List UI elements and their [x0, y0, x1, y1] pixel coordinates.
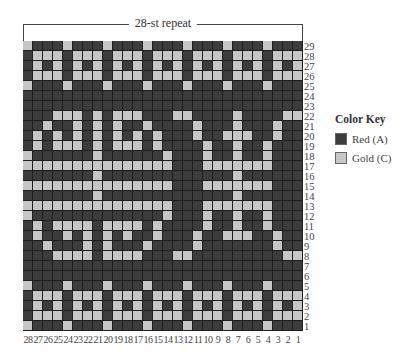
chart-cell	[103, 121, 113, 131]
chart-cell	[223, 241, 233, 251]
chart-cell	[63, 101, 73, 111]
chart-cell	[23, 131, 33, 141]
chart-cell	[173, 91, 183, 101]
chart-cell	[183, 301, 193, 311]
chart-cell	[93, 91, 103, 101]
chart-cell	[253, 91, 263, 101]
chart-cell	[213, 101, 223, 111]
chart-cell	[53, 301, 63, 311]
chart-cell	[23, 161, 33, 171]
chart-cell	[193, 61, 203, 71]
row-label: 18	[304, 151, 324, 161]
chart-cell	[83, 181, 93, 191]
chart-cell	[23, 211, 33, 221]
chart-cell	[153, 261, 163, 271]
chart-cell	[43, 171, 53, 181]
chart-cell	[153, 51, 163, 61]
chart-cell	[223, 221, 233, 231]
chart-cell	[213, 271, 223, 281]
chart-cell	[203, 321, 213, 331]
chart-cell	[233, 121, 243, 131]
chart-cell	[23, 251, 33, 261]
chart-cell	[113, 241, 123, 251]
chart-cell	[93, 161, 103, 171]
chart-cell	[203, 271, 213, 281]
chart-cell	[173, 191, 183, 201]
chart-cell	[73, 281, 83, 291]
chart-cell	[143, 91, 153, 101]
chart-cell	[163, 321, 173, 331]
chart-cell	[213, 171, 223, 181]
chart-cell	[263, 241, 273, 251]
chart-cell	[93, 271, 103, 281]
chart-cell	[143, 301, 153, 311]
chart-cell	[123, 151, 133, 161]
chart-cell	[73, 221, 83, 231]
chart-cell	[283, 241, 293, 251]
chart-cell	[213, 221, 223, 231]
chart-cell	[33, 201, 43, 211]
chart-cell	[53, 191, 63, 201]
chart-cell	[173, 201, 183, 211]
chart-cell	[123, 271, 133, 281]
chart-cell	[173, 251, 183, 261]
chart-cell	[123, 131, 133, 141]
chart-cell	[203, 311, 213, 321]
chart-cell	[263, 221, 273, 231]
chart-cell	[113, 151, 123, 161]
chart-cell	[273, 261, 283, 271]
chart-cell	[73, 271, 83, 281]
chart-cell	[223, 301, 233, 311]
chart-cell	[193, 171, 203, 181]
chart-cell	[23, 301, 33, 311]
chart-cell	[63, 41, 73, 51]
chart-cell	[203, 211, 213, 221]
chart-cell	[83, 171, 93, 181]
chart-cell	[63, 221, 73, 231]
chart-cell	[73, 161, 83, 171]
chart-cell	[183, 251, 193, 261]
chart-cell	[123, 321, 133, 331]
chart-cell	[243, 211, 253, 221]
chart-cell	[153, 161, 163, 171]
chart-cell	[263, 321, 273, 331]
chart-cell	[43, 231, 53, 241]
chart-cell	[233, 201, 243, 211]
chart-cell	[163, 211, 173, 221]
chart-cell	[283, 71, 293, 81]
chart-cell	[183, 111, 193, 121]
chart-cell	[263, 261, 273, 271]
chart-cell	[33, 241, 43, 251]
chart-cell	[183, 81, 193, 91]
chart-cell	[183, 151, 193, 161]
chart-cell	[263, 41, 273, 51]
chart-cell	[53, 321, 63, 331]
chart-cell	[143, 231, 153, 241]
chart-cell	[173, 231, 183, 241]
chart-cell	[53, 91, 63, 101]
chart-cell	[213, 131, 223, 141]
chart-cell	[63, 291, 73, 301]
stitch-label: 15	[153, 334, 163, 345]
chart-cell	[243, 61, 253, 71]
chart-cell	[173, 81, 183, 91]
chart-cell	[33, 81, 43, 91]
chart-cell	[253, 121, 263, 131]
chart-cell	[173, 41, 183, 51]
chart-cell	[183, 171, 193, 181]
chart-cell	[133, 161, 143, 171]
chart-cell	[243, 281, 253, 291]
chart-cell	[263, 51, 273, 61]
chart-cell	[203, 111, 213, 121]
chart-cell	[103, 211, 113, 221]
chart-cell	[273, 161, 283, 171]
chart-cell	[193, 191, 203, 201]
chart-cell	[133, 131, 143, 141]
chart-cell	[203, 281, 213, 291]
chart-cell	[183, 221, 193, 231]
color-key-title: Color Key	[335, 113, 391, 125]
chart-cell	[63, 151, 73, 161]
chart-cell	[93, 101, 103, 111]
chart-cell	[33, 211, 43, 221]
chart-cell	[133, 271, 143, 281]
